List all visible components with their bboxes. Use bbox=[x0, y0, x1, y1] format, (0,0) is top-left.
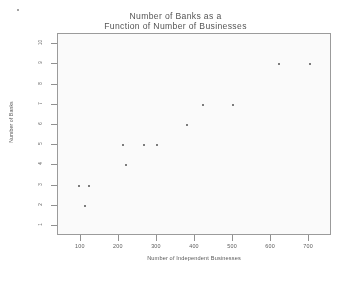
y-axis-tick-label: 2 bbox=[38, 196, 43, 212]
x-axis-label: Number of Independent Businesses bbox=[57, 255, 331, 261]
data-point bbox=[278, 63, 280, 65]
x-axis-tick-label: 500 bbox=[220, 243, 244, 249]
x-axis-tick bbox=[194, 235, 195, 241]
data-point bbox=[309, 63, 311, 65]
y-axis-tick-label: 5 bbox=[38, 136, 43, 152]
x-axis-tick bbox=[270, 235, 271, 241]
data-point bbox=[202, 104, 204, 106]
data-point bbox=[88, 185, 90, 187]
plot-area bbox=[58, 34, 330, 234]
y-axis-tick-label: 10 bbox=[38, 35, 43, 51]
x-axis-tick bbox=[232, 235, 233, 241]
data-point bbox=[143, 144, 145, 146]
data-point bbox=[232, 104, 234, 106]
y-axis-tick-label: 4 bbox=[38, 156, 43, 172]
chart-title-line-2: Function of Number of Businesses bbox=[0, 21, 351, 32]
y-axis-tick-label: 7 bbox=[38, 95, 43, 111]
x-axis-tick bbox=[156, 235, 157, 241]
x-axis-tick bbox=[308, 235, 309, 241]
x-axis-tick-label: 700 bbox=[296, 243, 320, 249]
x-axis-tick-label: 200 bbox=[106, 243, 130, 249]
y-axis-label: Number of Banks bbox=[8, 92, 14, 152]
x-axis-tick-label: 600 bbox=[258, 243, 282, 249]
data-point bbox=[78, 185, 80, 187]
data-point bbox=[125, 164, 127, 166]
data-point bbox=[156, 144, 158, 146]
x-axis-tick bbox=[80, 235, 81, 241]
x-axis-tick-label: 300 bbox=[144, 243, 168, 249]
x-axis-tick-label: 100 bbox=[68, 243, 92, 249]
y-axis-tick-label: 9 bbox=[38, 55, 43, 71]
data-point bbox=[186, 124, 188, 126]
data-point bbox=[122, 144, 124, 146]
data-point bbox=[84, 205, 86, 207]
y-axis-tick-label: 6 bbox=[38, 115, 43, 131]
y-axis-tick-label: 3 bbox=[38, 176, 43, 192]
x-axis-tick bbox=[118, 235, 119, 241]
x-axis-tick-label: 400 bbox=[182, 243, 206, 249]
y-axis-tick-label: 1 bbox=[38, 216, 43, 232]
y-axis-tick-label: 8 bbox=[38, 75, 43, 91]
chart-title-line-1: Number of Banks as a bbox=[0, 11, 351, 22]
plot-frame bbox=[57, 33, 331, 235]
chart-canvas: Number of Banks as a Function of Number … bbox=[0, 0, 351, 281]
